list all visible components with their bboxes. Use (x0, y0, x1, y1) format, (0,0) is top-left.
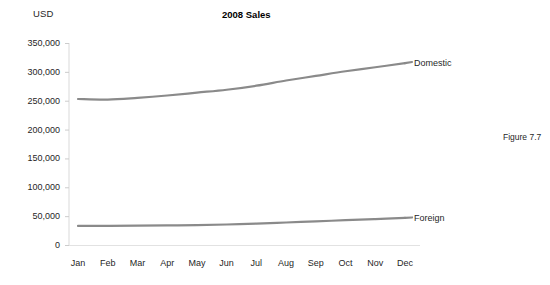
series-leader-domestic (405, 62, 412, 63)
y-tick-label: 250,000 (2, 96, 60, 106)
y-tick-label: 350,000 (2, 38, 60, 48)
x-tick-label: May (188, 258, 205, 268)
series-label-domestic: Domestic (414, 58, 452, 68)
axis-group (69, 43, 420, 246)
series-line-domestic (78, 63, 405, 99)
x-tick-label: Jul (251, 258, 263, 268)
series-line-foreign (78, 218, 405, 226)
series-lines (78, 62, 412, 226)
x-tick-label: Mar (130, 258, 146, 268)
line-chart-svg (0, 0, 550, 285)
x-tick-label: Jan (71, 258, 86, 268)
y-tick-label: 50,000 (2, 211, 60, 221)
x-tick-label: Jun (219, 258, 234, 268)
x-tick-label: Apr (160, 258, 174, 268)
x-tick-label: Aug (278, 258, 294, 268)
x-tick-label: Sep (308, 258, 324, 268)
y-tick-marks (65, 44, 69, 246)
y-tick-label: 150,000 (2, 153, 60, 163)
plot-area: 050,000100,000150,000200,000250,000300,0… (0, 0, 550, 285)
y-tick-label: 200,000 (2, 125, 60, 135)
x-tick-label: Oct (339, 258, 353, 268)
y-tick-label: 100,000 (2, 182, 60, 192)
x-tick-label: Feb (100, 258, 116, 268)
figure-container: USD 2008 Sales Figure 7.7 050,000100,000… (0, 0, 550, 285)
series-label-foreign: Foreign (414, 213, 445, 223)
x-tick-label: Nov (367, 258, 383, 268)
y-tick-label: 300,000 (2, 67, 60, 77)
x-tick-label: Dec (397, 258, 413, 268)
y-tick-label: 0 (2, 240, 60, 250)
